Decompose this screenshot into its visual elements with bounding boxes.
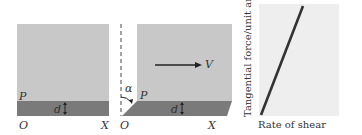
angle-label: α xyxy=(125,83,132,94)
angle-arrowhead-icon xyxy=(129,99,133,104)
chart-y-axis-label: Tangential force/unit area xyxy=(243,0,253,117)
left-shear-layer xyxy=(17,101,109,116)
chart-x-axis-label: Rate of shear xyxy=(258,120,326,130)
chart-plot-area xyxy=(259,4,339,116)
left-axis-label: X xyxy=(101,120,109,131)
middle-thickness-label: d xyxy=(171,104,178,115)
middle-origin-label: O xyxy=(120,120,129,131)
middle-plate-label: P xyxy=(140,90,147,101)
left-plate-label: P xyxy=(19,91,26,102)
middle-fluid-block xyxy=(137,24,232,101)
middle-axis-label: X xyxy=(208,120,216,131)
angle-arc-icon xyxy=(121,97,131,102)
left-origin-label: O xyxy=(19,120,28,131)
left-fluid-block xyxy=(17,24,109,101)
left-thickness-label: d xyxy=(54,104,61,115)
velocity-label: V xyxy=(205,59,213,70)
